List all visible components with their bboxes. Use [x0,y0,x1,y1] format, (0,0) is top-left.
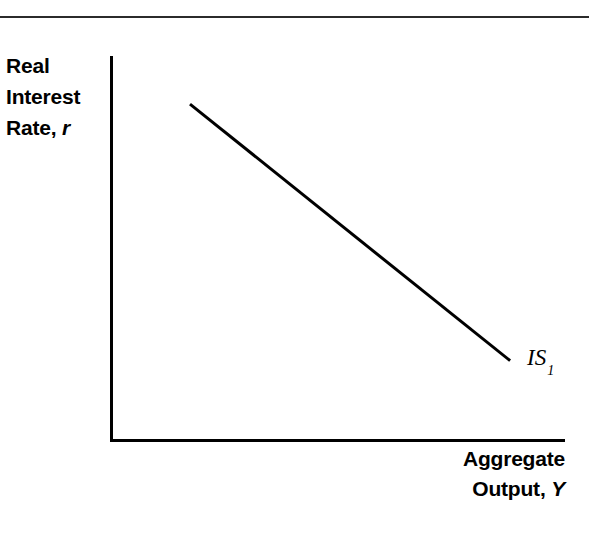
is-curve-label: IS1 [527,345,553,375]
x-axis-title-line-2-text: Output, [472,477,545,500]
x-axis-title-line-1: Aggregate [265,444,565,474]
y-axis-title-line-3: Rate, r [6,112,80,143]
is-curve-label-subscript: 1 [547,363,554,378]
y-axis-variable-symbol: r [62,116,70,139]
x-axis-title-line-2: Output, Y [265,474,565,504]
y-axis-title-line-2: Interest [6,81,80,112]
top-divider-rule [0,16,589,18]
x-axis-title: Aggregate Output, Y [265,444,565,504]
y-axis-line [110,56,113,442]
y-axis-title-line-1: Real [6,50,80,81]
y-axis-title-line-3-text: Rate, [6,116,56,139]
is-curve-label-text: IS [527,345,546,370]
x-axis-line [110,439,565,442]
is-curve-figure: Real Interest Rate, r IS1 Aggregate Outp… [0,0,589,534]
y-axis-title: Real Interest Rate, r [6,50,80,143]
is-curve-line [190,104,510,361]
x-axis-variable-symbol: Y [551,477,565,500]
